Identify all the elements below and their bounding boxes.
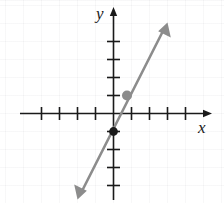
x-axis-arrowhead-icon [203, 110, 212, 117]
coordinate-plane-figure: y x [0, 0, 224, 203]
line-segment [81, 29, 164, 193]
plotted-line [74, 23, 171, 200]
y-axis-label: y [96, 5, 104, 22]
graph-canvas [0, 0, 224, 203]
point-second [122, 91, 132, 101]
x-axis [20, 110, 212, 117]
y-axis [110, 7, 117, 200]
y-axis-arrowhead-icon [110, 7, 117, 16]
point-y-intercept [109, 127, 118, 136]
x-axis-label: x [198, 119, 206, 136]
